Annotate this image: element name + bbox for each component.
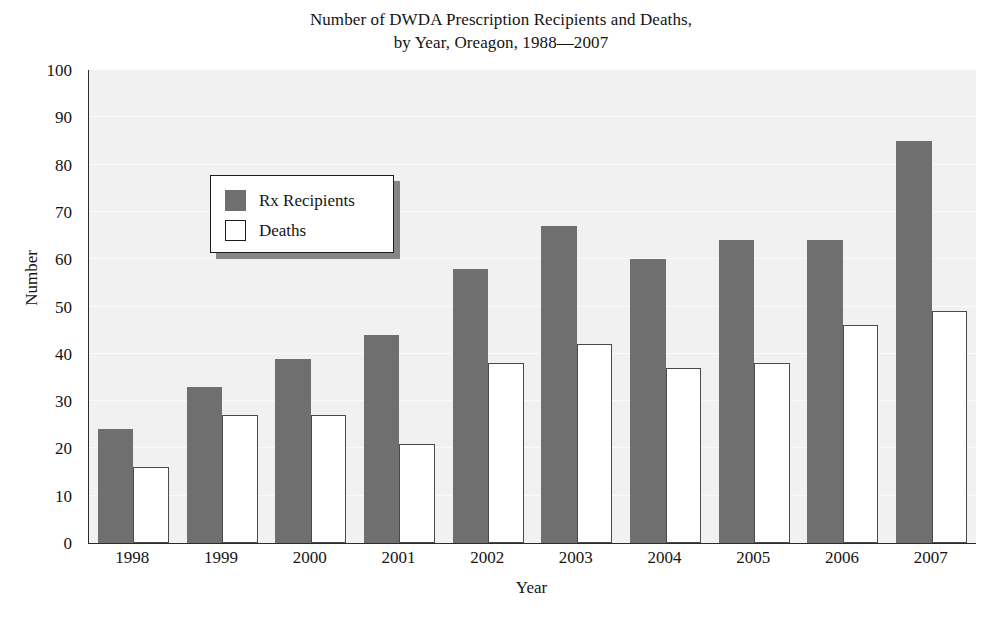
bar-deaths-2006 [843, 325, 879, 543]
x-tick-label: 2003 [559, 548, 593, 568]
bar-rx-recipients-2004 [630, 259, 666, 543]
bar-deaths-2004 [666, 368, 702, 543]
x-tick-label: 1998 [115, 548, 149, 568]
bar-rx-recipients-2003 [541, 226, 577, 543]
y-tick-label: 0 [64, 535, 73, 552]
bar-rx-recipients-2007 [896, 141, 932, 543]
gridline [89, 306, 976, 307]
y-tick-label: 100 [47, 62, 73, 79]
x-axis-tick-labels: 1998199920002001200220032004200520062007 [88, 548, 975, 574]
x-tick-label: 2006 [825, 548, 859, 568]
plot-area: Rx RecipientsDeaths [88, 70, 976, 544]
chart-title: Number of DWDA Prescription Recipients a… [0, 8, 1002, 54]
bar-deaths-2001 [399, 444, 435, 543]
bar-deaths-2000 [311, 415, 347, 543]
bar-rx-recipients-1998 [98, 429, 134, 543]
bar-deaths-2002 [488, 363, 524, 543]
y-tick-label: 50 [55, 298, 72, 315]
gridline [89, 116, 976, 117]
y-tick-label: 70 [55, 203, 72, 220]
legend-item-deaths: Deaths [211, 215, 393, 245]
x-tick-label: 2005 [736, 548, 770, 568]
legend-item-rx-recipients: Rx Recipients [211, 185, 393, 215]
x-tick-label: 2000 [293, 548, 327, 568]
y-axis-title: Number [22, 218, 42, 338]
legend-swatch-deaths-icon [225, 220, 246, 241]
legend-label: Rx Recipients [259, 191, 355, 210]
chart-legend: Rx RecipientsDeaths [210, 175, 394, 253]
x-tick-label: 1999 [204, 548, 238, 568]
bar-rx-recipients-1999 [187, 387, 223, 543]
y-tick-label: 30 [55, 393, 72, 410]
y-tick-label: 90 [55, 109, 72, 126]
legend-label: Deaths [259, 221, 306, 240]
x-tick-label: 2007 [914, 548, 948, 568]
y-tick-label: 80 [55, 156, 72, 173]
bar-rx-recipients-2005 [719, 240, 755, 543]
chart-title-line-1: Number of DWDA Prescription Recipients a… [0, 8, 1002, 31]
bar-deaths-2007 [932, 311, 968, 543]
y-tick-label: 60 [55, 251, 72, 268]
bar-rx-recipients-2006 [807, 240, 843, 543]
y-tick-label: 20 [55, 440, 72, 457]
x-axis-title: Year [88, 578, 975, 598]
gridline [89, 69, 976, 70]
bar-deaths-1999 [222, 415, 258, 543]
y-tick-label: 10 [55, 487, 72, 504]
legend-swatch-rx-icon [225, 190, 246, 211]
gridline [89, 164, 976, 165]
gridline [89, 258, 976, 259]
bar-rx-recipients-2001 [364, 335, 400, 543]
bar-rx-recipients-2002 [453, 269, 489, 543]
x-tick-label: 2001 [381, 548, 415, 568]
bar-rx-recipients-2000 [275, 359, 311, 543]
x-tick-label: 2004 [648, 548, 682, 568]
chart-title-line-2: by Year, Oreagon, 1988—2007 [0, 31, 1002, 54]
bar-deaths-1998 [133, 467, 169, 543]
bar-deaths-2003 [577, 344, 613, 543]
x-tick-label: 2002 [470, 548, 504, 568]
y-tick-label: 40 [55, 345, 72, 362]
bar-deaths-2005 [754, 363, 790, 543]
